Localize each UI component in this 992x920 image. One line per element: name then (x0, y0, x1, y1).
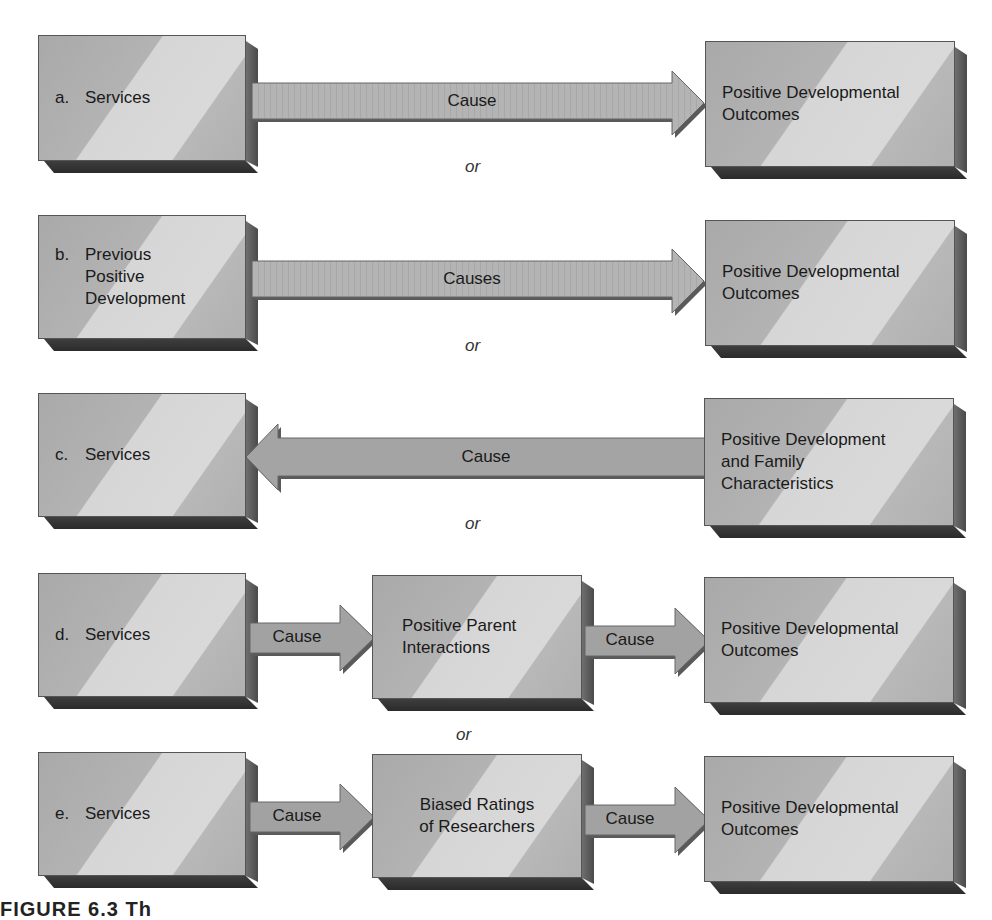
row-e-letter: e. (55, 803, 85, 825)
row-d-source-box: d. Services (38, 573, 258, 709)
row-d-mediator-box: Positive Parent Interactions (372, 575, 594, 711)
row-d-cause-arrow-2: Cause (585, 604, 710, 676)
row-c-source-box: c. Services (38, 393, 258, 529)
row-b-source-box: b. Previous Positive Development (38, 215, 258, 351)
row-c-target-box: Positive Development and Family Characte… (704, 398, 966, 538)
row-b-target-label: Positive Developmental Outcomes (722, 261, 900, 305)
row-d-mediator-label: Positive Parent Interactions (402, 615, 516, 659)
row-e-arrow1-label: Cause (252, 806, 342, 826)
figure-caption: FIGURE 6.3 Th (0, 898, 152, 920)
or-connector-2: or (465, 336, 480, 356)
row-b-letter: b. (55, 244, 85, 266)
row-d-letter: d. (55, 624, 85, 646)
row-c-cause-arrow: Cause (246, 420, 708, 492)
row-c-target-label: Positive Development and Family Characte… (721, 429, 885, 495)
row-e-source-label: Services (85, 803, 150, 825)
row-d-cause-arrow-1: Cause (250, 601, 375, 673)
row-c-letter: c. (55, 444, 85, 466)
row-e-cause-arrow-2: Cause (585, 783, 710, 855)
row-d-target-box: Positive Developmental Outcomes (704, 577, 966, 715)
row-a-target-label: Positive Developmental Outcomes (722, 82, 900, 126)
row-b-target-box: Positive Developmental Outcomes (705, 220, 967, 358)
row-a-cause-arrow: Cause (252, 65, 707, 137)
row-e-mediator-label: Biased Ratings of Researchers (419, 794, 534, 838)
row-e-arrow2-label: Cause (585, 809, 675, 829)
row-a-target-box: Positive Developmental Outcomes (705, 41, 967, 179)
row-a-letter: a. (55, 87, 85, 109)
row-c-source-label: Services (85, 444, 150, 466)
row-a-source-box: a. Services (38, 35, 258, 173)
row-e-source-box: e. Services (38, 752, 258, 888)
row-e-target-label: Positive Developmental Outcomes (721, 797, 899, 841)
row-b-arrow-label: Causes (252, 269, 692, 289)
row-c-arrow-label: Cause (276, 447, 696, 467)
row-d-arrow2-label: Cause (585, 630, 675, 650)
row-e-cause-arrow-1: Cause (250, 780, 375, 852)
or-connector-1: or (465, 157, 480, 177)
row-a-arrow-label: Cause (252, 91, 692, 111)
row-d-source-label: Services (85, 624, 150, 646)
row-b-source-label: Previous Positive Development (85, 244, 185, 310)
row-d-target-label: Positive Developmental Outcomes (721, 618, 899, 662)
row-e-mediator-box: Biased Ratings of Researchers (372, 754, 594, 890)
row-a-source-label: Services (85, 87, 150, 109)
row-b-causes-arrow: Causes (252, 243, 707, 315)
row-d-arrow1-label: Cause (252, 627, 342, 647)
or-connector-4: or (456, 725, 471, 745)
row-e-target-box: Positive Developmental Outcomes (704, 756, 966, 894)
or-connector-3: or (465, 514, 480, 534)
